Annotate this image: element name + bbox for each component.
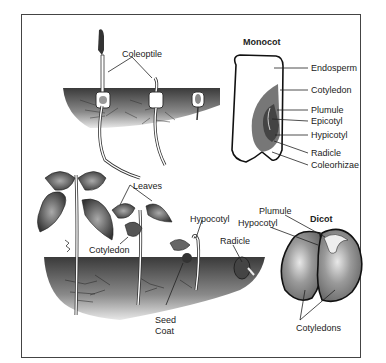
label-hypicotyl: Hypicotyl xyxy=(311,131,348,140)
label-coleorhizae: Coleorhizae xyxy=(311,161,359,170)
monocot-title: Monocot xyxy=(243,38,281,47)
monocot-seed-small xyxy=(192,92,204,120)
label-endosperm: Endosperm xyxy=(311,64,357,73)
label-plumule-monocot: Plumule xyxy=(311,106,344,115)
label-cotyledon-monocot: Cotyledon xyxy=(311,86,352,95)
label-epicotyl: Epicotyl xyxy=(311,117,343,126)
label-seed-coat-line1: Seed xyxy=(155,316,176,325)
germination-illustration xyxy=(0,0,386,363)
label-coleoptile: Coleoptile xyxy=(122,50,162,59)
label-cotyledons: Cotyledons xyxy=(296,324,341,333)
label-radicle-dicot: Radicle xyxy=(220,237,250,246)
label-radicle-monocot: Radicle xyxy=(311,149,341,158)
monocot-seed-cross-section xyxy=(232,55,283,162)
cotyledon-pointer xyxy=(120,237,128,244)
label-hypocotyl-seedling: Hypocotyl xyxy=(190,215,230,224)
label-plumule-dicot: Plumule xyxy=(259,207,292,216)
dicot-seed-cross-section xyxy=(281,229,362,301)
dicot-title: Dicot xyxy=(310,215,333,224)
label-cotyledon-dicot: Cotyledon xyxy=(89,246,130,255)
label-leaves: Leaves xyxy=(133,182,162,191)
label-hypocotyl-dicot: Hypocotyl xyxy=(238,219,278,228)
label-seed-coat-line2: Coat xyxy=(155,327,174,336)
